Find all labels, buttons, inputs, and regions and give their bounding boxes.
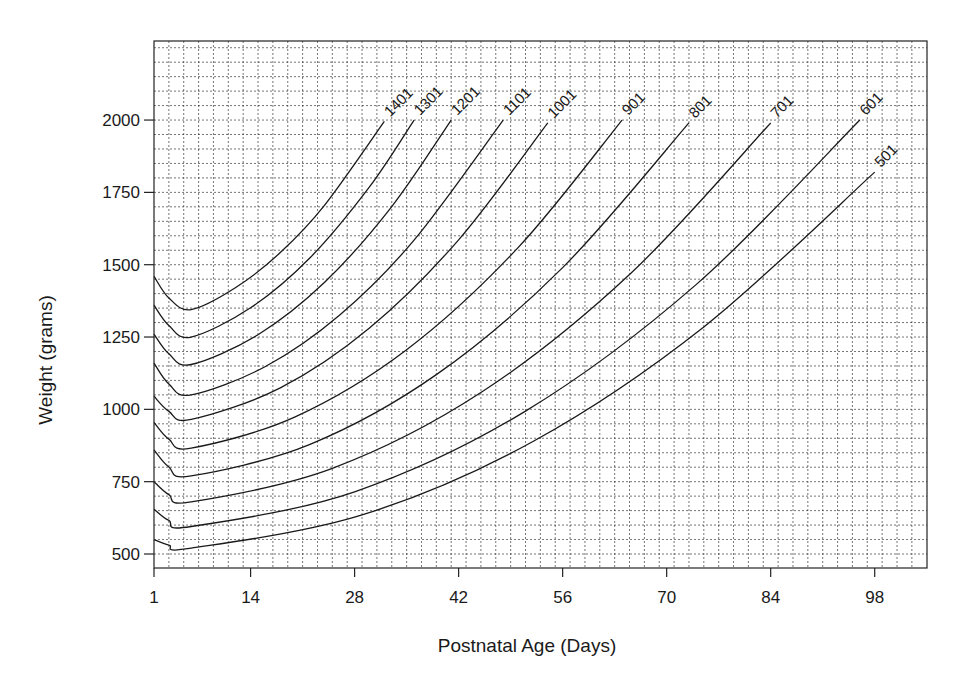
x-axis: 114284256708498 [149, 568, 884, 607]
curve-label-1301: 1301 [410, 83, 446, 119]
curve-label-501: 501 [871, 141, 901, 171]
y-axis: 50075010001250150017502000 [102, 111, 154, 564]
y-tick-label: 1750 [102, 183, 140, 202]
x-tick-label: 1 [149, 588, 158, 607]
x-axis-title: Postnatal Age (Days) [438, 635, 616, 656]
y-tick-label: 2000 [102, 111, 140, 130]
y-tick-label: 750 [112, 473, 140, 492]
x-tick-label: 28 [345, 588, 364, 607]
curve-label-801: 801 [685, 91, 715, 121]
x-tick-label: 98 [865, 588, 884, 607]
growth-curve-1001 [154, 123, 548, 421]
curve-label-1101: 1101 [499, 83, 534, 118]
curve-label-601: 601 [856, 88, 886, 118]
y-axis-title: Weight (grams) [35, 295, 56, 425]
x-tick-label: 70 [657, 588, 676, 607]
curve-label-701: 701 [767, 91, 797, 121]
growth-curve-501 [154, 172, 875, 550]
curve-label-1401: 1401 [380, 84, 416, 120]
y-tick-label: 1000 [102, 400, 140, 419]
growth-curve-1301 [154, 120, 414, 338]
y-tick-label: 1250 [102, 328, 140, 347]
y-tick-label: 500 [112, 545, 140, 564]
x-tick-label: 42 [449, 588, 468, 607]
x-tick-label: 84 [761, 588, 780, 607]
weight-growth-chart: 14011301120111011001901801701601501 1142… [0, 0, 965, 685]
growth-curve-1401 [154, 121, 384, 309]
growth-curves [154, 120, 875, 550]
curve-label-1201: 1201 [447, 83, 483, 119]
grid-lines [154, 41, 927, 568]
y-tick-label: 1500 [102, 256, 140, 275]
x-tick-label: 14 [241, 588, 260, 607]
growth-curve-901 [154, 120, 622, 449]
curve-label-901: 901 [618, 88, 648, 118]
x-tick-label: 56 [553, 588, 572, 607]
